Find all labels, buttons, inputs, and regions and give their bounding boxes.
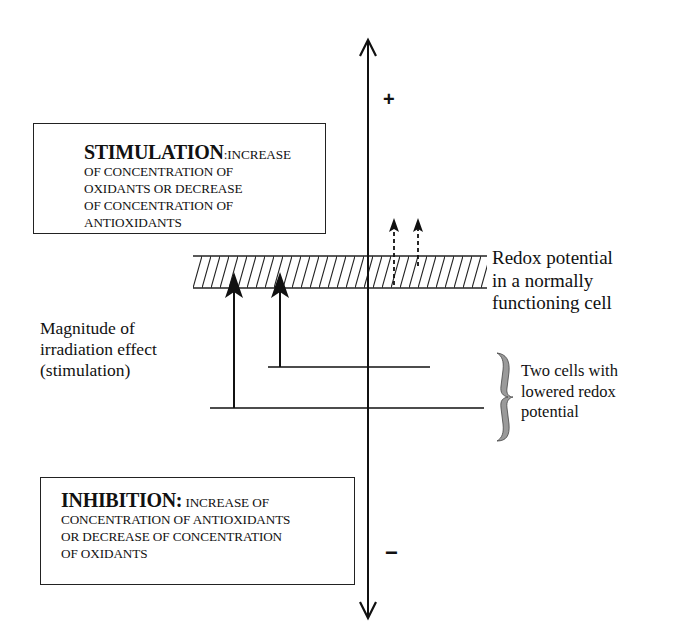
stimulation-line-4: OF CONCENTRATION OF <box>84 198 233 213</box>
arrowhead-solid-icon <box>389 218 399 232</box>
vertical-axis <box>360 40 376 618</box>
curly-brace-icon <box>497 353 513 441</box>
stimulation-line-1: INCREASE <box>227 147 291 162</box>
inhibition-box: INHIBITION: INCREASE OF CONCENTRATION OF… <box>40 477 355 585</box>
inhibition-line-4: OF OXIDANTS <box>61 546 147 561</box>
stimulation-line-5: ANTIOXIDANTS <box>84 215 182 230</box>
plus-sign: + <box>383 88 395 111</box>
inhibition-line-3: OR DECREASE OF CONCENTRATION <box>61 529 282 544</box>
two-cells-label: Two cells with lowered redox potential <box>521 361 618 423</box>
inhibition-title: INHIBITION: <box>61 489 182 511</box>
stimulation-arrow-1 <box>225 272 243 408</box>
inhibition-box-text: INHIBITION: INCREASE OF CONCENTRATION OF… <box>61 492 354 562</box>
magnitude-label: Magnitude of irradiation effect (stimula… <box>40 318 157 381</box>
inhibition-line-1: INCREASE OF <box>185 495 269 510</box>
inhibition-line-2: CONCENTRATION OF ANTIOXIDANTS <box>61 512 290 527</box>
stimulation-title: STIMULATION <box>84 141 224 163</box>
stimulation-line-3: OXIDANTS OR DECREASE <box>84 181 242 196</box>
stimulation-box-text: STIMULATION:INCREASE OF CONCENTRATION OF… <box>84 144 325 231</box>
stimulation-line-2: OF CONCENTRATION OF <box>84 164 233 179</box>
stimulation-box: STIMULATION:INCREASE OF CONCENTRATION OF… <box>33 123 326 234</box>
normal-redox-label: Redox potential in a normally functionin… <box>492 247 613 315</box>
minus-sign: − <box>385 540 398 566</box>
